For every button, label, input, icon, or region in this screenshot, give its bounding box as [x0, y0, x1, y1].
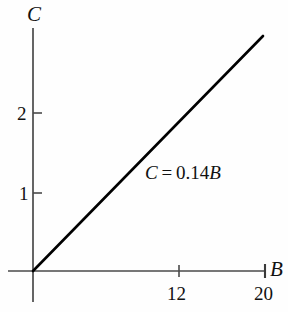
equation-annotation: C = 0.14B: [145, 163, 221, 182]
y-axis-label: C: [27, 4, 41, 25]
x-axis-label: B: [270, 259, 283, 280]
y-tick-label-1: 1: [19, 184, 29, 203]
x-tick-label-12: 12: [167, 284, 186, 303]
equation-equals: =: [162, 162, 173, 183]
plot-area: [0, 0, 288, 312]
data-line-series-1: [33, 36, 263, 271]
y-tick-label-2: 2: [17, 104, 27, 123]
equation-rhs-variable: B: [209, 162, 221, 183]
chart-figure: C B 2 1 12 20 C = 0.14B: [0, 0, 288, 312]
equation-coefficient: 0.14: [176, 162, 209, 183]
equation-lhs: C: [145, 162, 158, 183]
x-tick-label-20: 20: [254, 284, 273, 303]
